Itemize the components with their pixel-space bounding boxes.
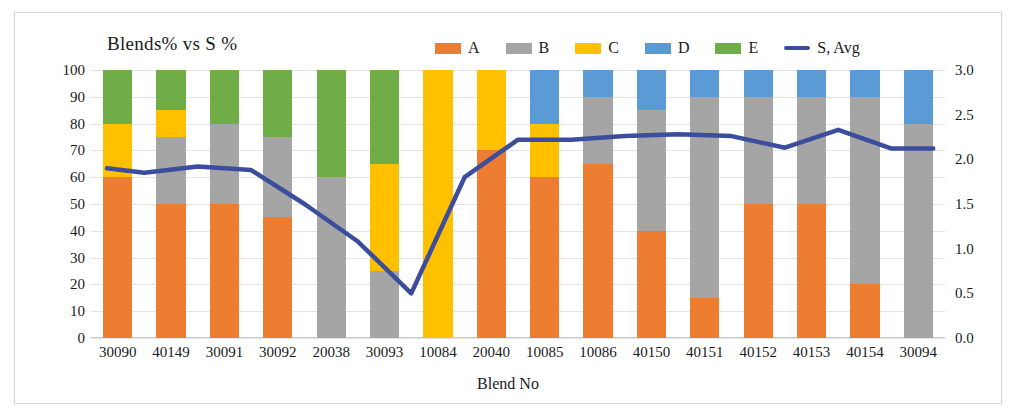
bar-segment-c[interactable] (423, 70, 452, 338)
stacked-bar[interactable] (263, 70, 292, 338)
bar-segment-a[interactable] (797, 204, 826, 338)
bar-slot (198, 70, 251, 338)
bar-segment-b[interactable] (690, 97, 719, 298)
legend-swatch-icon (715, 43, 741, 54)
bar-segment-a[interactable] (637, 231, 666, 338)
stacked-bar[interactable] (690, 70, 719, 338)
bar-slot (678, 70, 731, 338)
bar-segment-d[interactable] (904, 70, 933, 124)
bar-segment-e[interactable] (210, 70, 239, 124)
bar-segment-e[interactable] (103, 70, 132, 124)
bar-segment-b[interactable] (637, 110, 666, 231)
x-axis-tick: 30091 (198, 344, 251, 361)
stacked-bar[interactable] (583, 70, 612, 338)
bar-segment-b[interactable] (317, 177, 346, 338)
stacked-bar[interactable] (156, 70, 185, 338)
bar-segment-a[interactable] (690, 298, 719, 338)
stacked-bar[interactable] (797, 70, 826, 338)
stacked-bar[interactable] (370, 70, 399, 338)
stacked-bar[interactable] (423, 70, 452, 338)
bar-segment-a[interactable] (103, 177, 132, 338)
y-axis-left-tick: 90 (70, 89, 85, 104)
bar-segment-b[interactable] (744, 97, 773, 204)
bar-segment-b[interactable] (156, 137, 185, 204)
stacked-bar[interactable] (637, 70, 666, 338)
stacked-bar[interactable] (850, 70, 879, 338)
bar-slot (465, 70, 518, 338)
bar-segment-d[interactable] (637, 70, 666, 110)
bar-segment-a[interactable] (210, 204, 239, 338)
chart-card: Blends% vs S % ABCDES, Avg 1009080706050… (14, 12, 1002, 404)
bar-segment-b[interactable] (850, 97, 879, 285)
bar-segment-d[interactable] (797, 70, 826, 97)
bar-segment-e[interactable] (370, 70, 399, 164)
stacked-bar[interactable] (103, 70, 132, 338)
x-axis-title: Blend No (15, 375, 1001, 393)
bar-segment-b[interactable] (370, 271, 399, 338)
x-axis-tick: 40153 (785, 344, 838, 361)
stacked-bar[interactable] (210, 70, 239, 338)
bar-segment-d[interactable] (690, 70, 719, 97)
bar-segment-b[interactable] (583, 97, 612, 164)
y-axis-right-tick: 0.0 (955, 331, 974, 346)
bar-segment-e[interactable] (156, 70, 185, 110)
bar-segment-e[interactable] (263, 70, 292, 137)
bar-segment-a[interactable] (477, 150, 506, 338)
y-axis-right-tick: 2.0 (955, 152, 974, 167)
bar-slot (411, 70, 464, 338)
bar-group (91, 70, 945, 338)
legend-item-e[interactable]: E (715, 39, 758, 57)
legend-item-b[interactable]: B (506, 39, 550, 57)
legend-swatch-icon (435, 43, 461, 54)
bar-segment-a[interactable] (744, 204, 773, 338)
bar-segment-c[interactable] (370, 164, 399, 271)
x-axis-tick: 20038 (305, 344, 358, 361)
bar-segment-c[interactable] (103, 124, 132, 178)
bar-slot (144, 70, 197, 338)
x-axis-tick: 30094 (892, 344, 945, 361)
bar-slot (305, 70, 358, 338)
stacked-bar[interactable] (904, 70, 933, 338)
bar-segment-c[interactable] (530, 124, 559, 178)
x-axis-tick: 30090 (91, 344, 144, 361)
y-axis-left-tick: 100 (63, 63, 86, 78)
legend-swatch-icon (506, 43, 532, 54)
bar-segment-c[interactable] (156, 110, 185, 137)
y-axis-right-tick: 0.5 (955, 286, 974, 301)
bar-segment-d[interactable] (744, 70, 773, 97)
legend-item-c[interactable]: C (575, 39, 619, 57)
y-axis-right-tick: 1.5 (955, 197, 974, 212)
bar-segment-a[interactable] (850, 284, 879, 338)
bar-segment-c[interactable] (477, 70, 506, 150)
plot-area (91, 70, 945, 338)
x-axis-tick: 40154 (838, 344, 891, 361)
legend-item-a[interactable]: A (435, 39, 480, 57)
legend-item-d[interactable]: D (645, 39, 690, 57)
bar-slot (625, 70, 678, 338)
stacked-bar[interactable] (477, 70, 506, 338)
bar-segment-e[interactable] (317, 70, 346, 177)
chart-title: Blends% vs S % (107, 33, 237, 55)
legend-item-s-avg[interactable]: S, Avg (784, 39, 859, 57)
x-axis-tick: 30093 (358, 344, 411, 361)
bar-segment-a[interactable] (530, 177, 559, 338)
bar-segment-b[interactable] (263, 137, 292, 217)
y-axis-left-tick: 40 (70, 223, 85, 238)
stacked-bar[interactable] (744, 70, 773, 338)
stacked-bar[interactable] (317, 70, 346, 338)
bar-slot (518, 70, 571, 338)
stacked-bar[interactable] (530, 70, 559, 338)
bar-segment-a[interactable] (583, 164, 612, 338)
bar-segment-d[interactable] (530, 70, 559, 124)
bar-segment-b[interactable] (904, 124, 933, 338)
bar-segment-d[interactable] (850, 70, 879, 97)
legend-swatch-icon (575, 43, 601, 54)
legend-label: S, Avg (817, 39, 859, 57)
legend-label: E (748, 39, 758, 57)
bar-segment-a[interactable] (263, 217, 292, 338)
bar-segment-b[interactable] (797, 97, 826, 204)
bar-segment-a[interactable] (156, 204, 185, 338)
bar-segment-d[interactable] (583, 70, 612, 97)
chart-legend: ABCDES, Avg (435, 39, 860, 57)
bar-segment-b[interactable] (210, 124, 239, 204)
